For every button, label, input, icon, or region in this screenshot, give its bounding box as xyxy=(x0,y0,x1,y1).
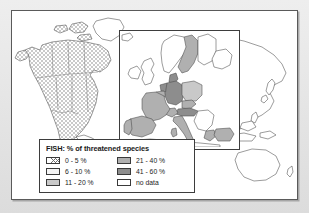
inset-region-balkans xyxy=(194,110,214,131)
inset-region-ireland xyxy=(128,66,141,79)
legend-label-1120: 11 - 20 % xyxy=(65,179,94,187)
region-indonesia-2 xyxy=(260,131,276,139)
legend-columns: 0 - 5 % 6 - 10 % 11 - 20 % 21 - 40 % xyxy=(46,156,188,187)
region-canada-arctic xyxy=(69,22,88,33)
figure-root: FISH: % of threatened species 0 - 5 % 6 … xyxy=(0,0,309,213)
legend-swatch-4160-icon xyxy=(117,168,131,175)
legend-column-right: 21 - 40 % 41 - 60 % no data xyxy=(117,156,188,187)
inset-region-united-kingdom xyxy=(141,58,154,85)
legend-item-2140: 21 - 40 % xyxy=(117,156,188,165)
legend-swatch-0005-icon xyxy=(46,157,60,164)
legend-label-2140: 21 - 40 % xyxy=(136,157,165,165)
region-canada-arctic-3 xyxy=(77,34,92,41)
legend-item-0005: 0 - 5 % xyxy=(46,156,117,165)
legend-swatch-0610-icon xyxy=(46,168,60,175)
legend-box: FISH: % of threatened species 0 - 5 % 6 … xyxy=(39,139,195,193)
map-frame: FISH: % of threatened species 0 - 5 % 6 … xyxy=(11,10,298,200)
legend-item-4160: 41 - 60 % xyxy=(117,167,188,176)
region-new-zealand xyxy=(287,166,293,177)
legend-item-0610: 6 - 10 % xyxy=(46,167,117,176)
inset-region-turkey xyxy=(214,128,234,141)
inset-region-sardinia xyxy=(171,128,177,137)
inset-region-iceland xyxy=(122,33,133,41)
region-canada-arctic-2 xyxy=(54,25,68,33)
legend-swatch-2140-icon xyxy=(117,157,131,164)
europe-inset-box xyxy=(119,30,240,150)
legend-title: FISH: % of threatened species xyxy=(46,144,188,153)
legend-swatch-nodata-icon xyxy=(117,179,131,186)
inset-region-austria xyxy=(176,108,198,116)
legend-item-nodata: no data xyxy=(117,178,188,187)
legend-label-4160: 41 - 60 % xyxy=(136,168,165,176)
legend-item-1120: 11 - 20 % xyxy=(46,178,117,187)
legend-label-0005: 0 - 5 % xyxy=(65,157,87,165)
legend-column-left: 0 - 5 % 6 - 10 % 11 - 20 % xyxy=(46,156,117,187)
region-australia xyxy=(235,149,280,181)
inset-region-czechia xyxy=(182,100,196,109)
legend-swatch-1120-icon xyxy=(46,179,60,186)
legend-label-0610: 6 - 10 % xyxy=(65,168,90,176)
legend-label-nodata: no data xyxy=(136,179,159,187)
inset-region-germany xyxy=(165,81,184,105)
region-north-america xyxy=(25,40,111,144)
europe-inset-map xyxy=(120,31,237,147)
inset-region-poland xyxy=(182,81,202,101)
